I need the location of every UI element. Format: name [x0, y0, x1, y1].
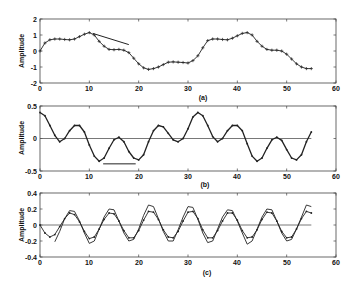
axes-b	[39, 106, 336, 171]
panel-label-b: (b)	[201, 181, 210, 189]
panel-c: Amplitude 0.4 0.2 0 -0.2 -0.4 0 10 20 30…	[18, 190, 340, 277]
plot-layer	[38, 19, 336, 257]
y-axis-label-a: Amplitude	[18, 34, 26, 68]
y-tick-a-m1: -1	[31, 64, 37, 71]
x-tick-c-50: 50	[283, 259, 291, 266]
x-tick-a-30: 30	[184, 85, 192, 92]
y-axis-label-b: Amplitude	[18, 121, 26, 155]
series-line-1	[40, 113, 311, 162]
axes-a	[38, 19, 336, 83]
y-tick-a-2: 2	[33, 16, 37, 23]
x-tick-b-10: 10	[85, 173, 93, 180]
series-line-1	[40, 33, 311, 70]
x-tick-b-0: 0	[38, 173, 42, 180]
x-tick-b-60: 60	[332, 173, 340, 180]
x-tick-b-50: 50	[283, 173, 291, 180]
y-tick-c-m04: -0.4	[25, 254, 37, 261]
x-tick-a-20: 20	[135, 85, 143, 92]
axes-c	[39, 193, 336, 257]
axes-frame	[40, 19, 336, 83]
chart-canvas: Amplitude 2 1 0 -1 -2 0 10 20 30 40 50 6…	[0, 0, 361, 288]
x-tick-c-10: 10	[85, 259, 93, 266]
y-tick-a-m2: -2	[31, 80, 37, 87]
y-tick-c-m02: -0.2	[25, 238, 37, 245]
panel-label-a: (a)	[199, 94, 208, 102]
x-tick-a-50: 50	[283, 85, 291, 92]
y-tick-c-04: 0.4	[27, 190, 37, 197]
x-tick-a-60: 60	[332, 85, 340, 92]
x-tick-c-20: 20	[135, 259, 143, 266]
figure: Amplitude 2 1 0 -1 -2 0 10 20 30 40 50 6…	[0, 0, 361, 288]
panel-label-c: (c)	[203, 269, 212, 277]
x-tick-b-40: 40	[233, 173, 241, 180]
x-tick-a-10: 10	[85, 85, 93, 92]
y-tick-c-0: 0	[33, 222, 37, 229]
x-tick-a-0: 0	[38, 85, 42, 92]
y-axis-label-c: Amplitude	[18, 208, 26, 242]
annotation-line	[93, 33, 129, 44]
y-tick-a-0: 0	[33, 48, 37, 55]
x-tick-c-0: 0	[38, 259, 42, 266]
x-tick-b-20: 20	[135, 173, 143, 180]
x-tick-c-40: 40	[233, 259, 241, 266]
x-tick-b-30: 30	[184, 173, 192, 180]
y-tick-b-m05: -0.5	[25, 168, 37, 175]
y-tick-c-02: 0.2	[27, 206, 37, 213]
x-tick-a-40: 40	[233, 85, 241, 92]
x-tick-c-60: 60	[332, 259, 340, 266]
y-tick-b-0: 0	[33, 135, 37, 142]
panel-b: Amplitude 0.5 0 -0.5 0 10 20 30 40 50 60…	[18, 103, 340, 189]
x-tick-c-30: 30	[184, 259, 192, 266]
y-tick-b-05: 0.5	[27, 103, 37, 110]
y-tick-a-1: 1	[33, 32, 37, 39]
